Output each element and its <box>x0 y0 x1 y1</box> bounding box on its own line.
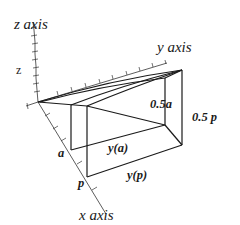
x-axis <box>38 102 106 214</box>
edge-label-y-a: y(a) <box>106 141 128 155</box>
y-axis-label: y axis <box>155 39 192 55</box>
height-label-half-a: 0.5a <box>150 97 172 111</box>
point-p-label: p <box>77 176 84 190</box>
height-label-half-p: 0.5 p <box>192 110 217 124</box>
wedge-solid <box>38 70 182 177</box>
point-a-label: a <box>58 146 64 160</box>
z-axis <box>31 22 40 102</box>
axis-stub <box>26 102 38 106</box>
z-variable-label: z <box>16 63 21 77</box>
x-axis-label: x axis <box>78 207 114 223</box>
3d-wedge-diagram: z axis z y axis x axis a p y(a) y(p) 0.5… <box>0 0 240 225</box>
z-axis-label: z axis <box>13 16 48 32</box>
edge-label-y-p: y(p) <box>125 168 147 182</box>
